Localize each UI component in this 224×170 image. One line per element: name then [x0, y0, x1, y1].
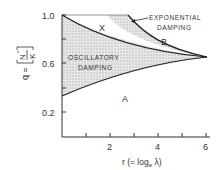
svg-text:N: N — [18, 54, 27, 60]
svg-text:q =: q = — [20, 67, 30, 80]
x-axis-label: r (= loge λ) — [122, 157, 162, 168]
x-tick-label-6: 6 — [203, 142, 208, 152]
x-tick-label-4: 4 — [155, 142, 160, 152]
region-label-oscillatory: OSCILLATORY — [68, 54, 119, 61]
phase-diagram: 1.0 0.6 0.2 2 4 6 r (= loge λ) q = N * K… — [0, 0, 224, 170]
region-label-x: X — [99, 23, 105, 33]
region-label-oscillatory-damping: DAMPING — [78, 64, 113, 71]
y-tick-label-1.0: 1.0 — [42, 11, 55, 21]
exponential-arrow — [133, 18, 148, 21]
x-ticks — [86, 133, 206, 137]
y-axis-label: q = N * K — [16, 47, 37, 80]
region-label-a: A — [122, 94, 128, 104]
x-tick-label-2: 2 — [107, 142, 112, 152]
svg-text:*: * — [16, 50, 22, 53]
region-label-b: B — [161, 37, 167, 47]
region-label-exponential-damping: DAMPING — [157, 24, 192, 31]
svg-text:K: K — [28, 53, 37, 59]
y-tick-label-0.2: 0.2 — [42, 108, 55, 118]
region-label-exponential: EXPONENTIAL — [149, 14, 201, 21]
y-tick-label-0.6: 0.6 — [42, 59, 55, 69]
